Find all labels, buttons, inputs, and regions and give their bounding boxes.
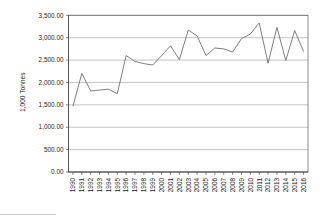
x-tick-label: 1997	[131, 178, 138, 193]
y-tick-label: 500.00	[44, 146, 64, 153]
x-tick-label: 2009	[238, 178, 245, 193]
x-tick-label: 1999	[149, 178, 156, 193]
x-tick-label: 2008	[229, 178, 236, 193]
x-tick-label: 1998	[140, 178, 147, 193]
x-tick-label: 2003	[185, 178, 192, 193]
y-axis-title: 1,000 Tonnes	[19, 72, 26, 112]
x-tick-label: 2004	[193, 178, 200, 193]
x-tick-label: 2015	[291, 178, 298, 193]
x-tick-label: 2014	[282, 178, 289, 193]
x-tick-label: 2010	[247, 178, 254, 193]
x-tick-label: 1990	[69, 178, 76, 193]
y-tick-label: 1,000.00	[39, 123, 64, 130]
y-tick-label: 3,500.00	[39, 12, 64, 19]
y-tick-label: 1,500.00	[39, 101, 64, 108]
x-tick-label: 1996	[122, 178, 129, 193]
x-tick-label: 2012	[264, 178, 271, 193]
y-tick-label: 0.00	[51, 168, 64, 175]
y-tick-label: 2,000.00	[39, 79, 64, 86]
x-tick-label: 1993	[96, 178, 103, 193]
x-tick-labels-group: 1990199119921993199419951996199719981999…	[69, 178, 307, 193]
x-tick-label: 2006	[211, 178, 218, 193]
x-tick-label: 2007	[220, 178, 227, 193]
x-tick-label: 2011	[256, 178, 263, 192]
x-tick-label: 1995	[114, 178, 121, 193]
x-tick-label: 2002	[176, 178, 183, 193]
x-tick-label: 1992	[87, 178, 94, 193]
x-tick-label: 1991	[78, 178, 85, 193]
x-tick-label: 2013	[273, 178, 280, 193]
x-tick-label: 1994	[105, 178, 112, 193]
line-chart: 0.00500.001,000.001,500.002,000.002,500.…	[0, 0, 325, 223]
x-tick-label: 2001	[167, 178, 174, 193]
y-tick-label: 2,500.00	[39, 56, 64, 63]
x-tick-label: 2000	[158, 178, 165, 193]
chart-container: 0.00500.001,000.001,500.002,000.002,500.…	[0, 0, 325, 223]
x-tick-label: 2005	[202, 178, 209, 193]
x-tick-label: 2016	[300, 178, 307, 193]
y-tick-label: 3,000.00	[39, 34, 64, 41]
